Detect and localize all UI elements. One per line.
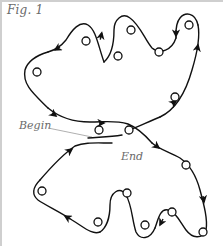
node-circle (141, 221, 149, 229)
node-circle (127, 26, 135, 34)
node-circle (171, 93, 179, 101)
node-circle (182, 161, 190, 169)
node-circle (114, 52, 122, 60)
upper-loop-arrows (52, 30, 198, 123)
lower-loop-path (34, 143, 207, 238)
node-circle (95, 126, 103, 134)
node-circles (33, 21, 207, 236)
upper-loop-path (25, 14, 199, 143)
node-circle (94, 218, 102, 226)
node-circle (38, 187, 46, 195)
node-circle (185, 21, 193, 29)
node-circle (199, 228, 207, 236)
node-circle (125, 126, 133, 134)
node-circle (33, 68, 41, 76)
begin-leader-line (48, 128, 92, 137)
path-diagram (0, 0, 223, 246)
node-circle (82, 37, 90, 45)
node-circle (168, 208, 176, 216)
lower-loop-arrows (65, 145, 204, 225)
node-circle (123, 189, 131, 197)
node-circle (155, 48, 163, 56)
